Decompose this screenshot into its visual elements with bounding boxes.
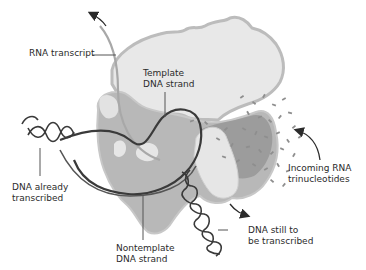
incoming-arrow — [296, 130, 320, 160]
label-dna-still-to-be-transcribed: DNA still to be transcribed — [248, 225, 313, 246]
rna-exit-arrow — [90, 13, 106, 26]
rna-polymerase-diagram: RNA transcript Template DNA strand DNA a… — [0, 0, 366, 270]
label-nontemplate-dna-strand: Nontemplate DNA strand — [116, 243, 175, 264]
label-template-dna-strand: Template DNA strand — [143, 68, 195, 89]
label-incoming-rna-trinucleotides: Incoming RNA trinucleotides — [288, 163, 352, 184]
rightward-arrow — [230, 204, 248, 216]
label-dna-already-transcribed: DNA already transcribed — [12, 182, 68, 203]
label-rna-transcript: RNA transcript — [29, 48, 95, 59]
dna-helix-left — [22, 117, 74, 142]
